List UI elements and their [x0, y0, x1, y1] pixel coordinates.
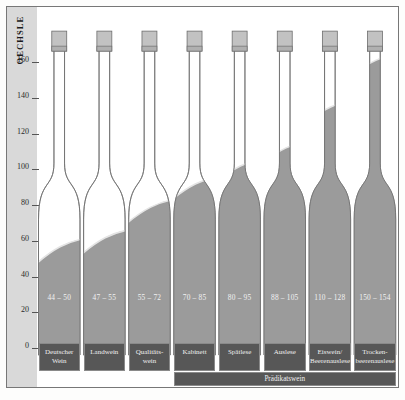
category-box-3[interactable]: Qualitäts-wein: [129, 343, 171, 371]
value-label-1: 44 – 50: [39, 293, 81, 302]
category-label-line1: Qualitäts-: [130, 348, 170, 357]
y-tick-160: 160: [7, 62, 39, 63]
category-label-line2: beerenauslese: [355, 357, 395, 366]
bottle-1: [37, 31, 86, 359]
y-tick-100: 100: [7, 169, 39, 170]
bottle-5: [213, 31, 267, 359]
bottle-4: [168, 31, 222, 359]
value-label-2: 47 – 55: [84, 293, 126, 302]
y-tick-label: 140: [17, 91, 29, 100]
y-axis-title: OECHSLE: [15, 5, 25, 75]
category-label-line1: Eiswein/: [310, 348, 350, 357]
y-tick-120: 120: [7, 134, 39, 135]
value-label-5: 80 – 95: [219, 293, 261, 302]
bottles-graphic: [37, 7, 398, 387]
bottle-6: [258, 31, 312, 359]
value-label-6: 88 – 105: [264, 293, 306, 302]
y-tick-140: 140: [7, 98, 39, 99]
y-tick-label: 160: [17, 55, 29, 64]
category-label-line2: Wein: [40, 357, 80, 366]
bottle-3: [123, 31, 177, 359]
category-box-2[interactable]: Landwein: [84, 343, 126, 371]
y-tick-60: 60: [7, 241, 39, 242]
bottle-8: [348, 31, 398, 359]
value-label-3: 55 – 72: [129, 293, 171, 302]
category-label-line1: Deutscher: [40, 348, 80, 357]
category-label-line1: Landwein: [85, 348, 125, 357]
y-tick-80: 80: [7, 205, 39, 206]
value-label-4: 70 – 85: [174, 293, 216, 302]
y-tick-0: 0: [7, 348, 39, 349]
category-box-5[interactable]: Spätlese: [219, 343, 261, 371]
category-label-line1: Trocken-: [355, 348, 395, 357]
pradikatswein-group-bar: Prädikatswein: [174, 372, 396, 386]
category-label-line2: wein: [130, 357, 170, 366]
y-tick-label: 100: [17, 162, 29, 171]
category-label-line1: Auslese: [265, 348, 305, 357]
category-box-8[interactable]: Trocken-beerenauslese: [354, 343, 396, 371]
category-box-7[interactable]: Eiswein/Beerenauslese: [309, 343, 351, 371]
value-label-8: 150 – 154: [354, 293, 396, 302]
y-tick-label: 80: [21, 198, 29, 207]
bottle-2: [78, 31, 132, 359]
y-tick-label: 20: [21, 305, 29, 314]
y-tick-40: 40: [7, 277, 39, 278]
category-label-line2: Beerenauslese: [310, 357, 350, 366]
oechsle-bottle-chart: OECHSLE 160140120100806040200 44 – 5047 …: [0, 0, 405, 400]
category-label-line1: Spätlese: [220, 348, 260, 357]
bottle-7: [303, 31, 357, 359]
category-box-4[interactable]: Kabinett: [174, 343, 216, 371]
category-box-1[interactable]: DeutscherWein: [39, 343, 81, 371]
plot-area: [37, 7, 398, 387]
y-tick-label: 60: [21, 234, 29, 243]
category-box-6[interactable]: Auslese: [264, 343, 306, 371]
y-axis-band: OECHSLE: [7, 7, 37, 387]
value-label-7: 110 – 128: [309, 293, 351, 302]
y-tick-label: 0: [25, 341, 29, 350]
y-tick-label: 40: [21, 270, 29, 279]
category-label-line1: Kabinett: [175, 348, 215, 357]
y-tick-20: 20: [7, 312, 39, 313]
y-tick-label: 120: [17, 127, 29, 136]
